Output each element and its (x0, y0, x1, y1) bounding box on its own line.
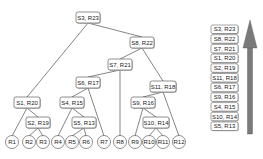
tree-leaf-label: R7 (100, 139, 108, 145)
tree-node: S5, R13 (72, 117, 97, 129)
tree-edge (38, 128, 43, 136)
tree-node: S10, R14 (143, 117, 170, 129)
tree-edge (27, 108, 38, 117)
tree-leaf-label: R8 (116, 139, 124, 145)
tree-node: S8, R22 (130, 37, 155, 49)
tree-node-label: S8, R22 (131, 40, 153, 46)
tree-leaf: R6 (80, 136, 93, 149)
tree-node: S6, R17 (76, 77, 101, 89)
tree-leaf-label: R11 (158, 139, 169, 145)
tree-edge (88, 70, 120, 77)
tree-leaf: R5 (66, 136, 79, 149)
tree-edge (120, 48, 142, 59)
tree-node: S1, R20 (14, 97, 41, 109)
legend-item-label: S3, R23 (214, 26, 236, 32)
tree-edge (135, 108, 143, 136)
tree-leaf-label: R3 (39, 139, 47, 145)
tree-edge (12, 108, 27, 136)
tree-leaf-label: R12 (173, 139, 185, 145)
legend-item: S5, R13 (211, 122, 239, 131)
legend-item: S3, R23 (211, 25, 239, 34)
tree-leaf-label: R6 (82, 139, 90, 145)
legend-item-label: S9, R16 (214, 94, 236, 100)
tree-edge (58, 108, 72, 136)
tree-leaf: R7 (98, 136, 111, 149)
tree-leaf: R3 (37, 136, 50, 149)
legend-item: S2, R19 (211, 64, 239, 73)
legend-item: S9, R16 (211, 93, 239, 102)
tree-node-label: S7, R21 (109, 62, 131, 68)
tree-leaf-label: R2 (25, 139, 33, 145)
tree-edge (84, 128, 86, 136)
tree-leaf-label: R1 (8, 139, 16, 145)
tree-node-label: S3, R23 (77, 15, 99, 21)
tree-node-label: S2, R19 (27, 120, 49, 126)
tree-leaf: R9 (129, 136, 142, 149)
up-arrow-icon (243, 20, 257, 134)
legend-item: S6, R17 (211, 83, 239, 92)
legend-item: S8, R22 (211, 35, 239, 44)
tree-node: S2, R19 (26, 117, 51, 129)
tree-leaf: R1 (6, 136, 19, 149)
tree-node-label: S1, R20 (16, 100, 38, 106)
tree-leaf: R2 (23, 136, 36, 149)
tree-leaf: R8 (114, 136, 127, 149)
tree-edge (156, 128, 163, 136)
tree-internal-nodes: S3, R23S8, R22S7, R21S6, R17S11, R18S1, … (14, 12, 177, 129)
tree-node: S3, R23 (76, 12, 101, 24)
merge-tree-diagram: S3, R23S8, R22S7, R21S6, R17S11, R18S1, … (0, 0, 263, 159)
legend-item: S1, R20 (211, 54, 239, 63)
tree-node-label: S6, R17 (77, 80, 99, 86)
tree-edge (143, 108, 156, 117)
tree-node: S7, R21 (108, 59, 133, 71)
tree-node-label: S9, R16 (132, 100, 154, 106)
tree-leaf-label: R10 (143, 139, 155, 145)
legend-item-label: S8, R22 (214, 36, 236, 42)
order-legend: S3, R23S8, R22S7, R21S1, R20S2, R19S11, … (211, 25, 239, 131)
legend-item-label: S11, R18 (212, 75, 237, 81)
legend-item-label: S7, R21 (214, 46, 236, 52)
tree-edge (88, 23, 142, 37)
tree-leaf-nodes: R1R2R3R4R5R6R7R8R9R10R11R12 (6, 136, 186, 149)
legend-item: S7, R21 (211, 44, 239, 53)
tree-leaf-label: R9 (131, 139, 139, 145)
tree-leaf: R12 (173, 136, 186, 149)
tree-node-label: S11, R18 (151, 84, 176, 90)
legend-item-label: S6, R17 (214, 84, 236, 90)
legend-item-label: S4, R15 (214, 104, 236, 110)
tree-edge (149, 128, 156, 136)
tree-node-label: S4, R15 (61, 100, 83, 106)
legend-item: S4, R15 (211, 103, 239, 112)
tree-edge (142, 48, 163, 81)
legend-item: S11, R18 (211, 74, 239, 83)
tree-leaf: R11 (157, 136, 170, 149)
tree-node: S11, R18 (150, 81, 177, 93)
tree-node: S4, R15 (60, 97, 85, 109)
tree-edge (163, 92, 179, 136)
legend-item: S10, R14 (211, 112, 239, 121)
tree-leaf-label: R5 (68, 139, 76, 145)
tree-leaf: R4 (52, 136, 65, 149)
tree-edge (72, 128, 84, 136)
legend-item-label: S2, R19 (214, 65, 236, 71)
legend-item-label: S5, R13 (214, 123, 236, 129)
tree-edge (72, 88, 88, 97)
tree-node-label: S5, R13 (73, 120, 95, 126)
tree-edge (72, 108, 84, 117)
legend-item-label: S1, R20 (214, 55, 236, 61)
tree-node: S9, R16 (131, 97, 156, 109)
legend-item-label: S10, R14 (212, 114, 238, 120)
tree-node-label: S10, R14 (143, 120, 169, 126)
tree-leaf: R10 (143, 136, 156, 149)
tree-leaf-label: R4 (54, 139, 62, 145)
tree-edge (29, 128, 38, 136)
